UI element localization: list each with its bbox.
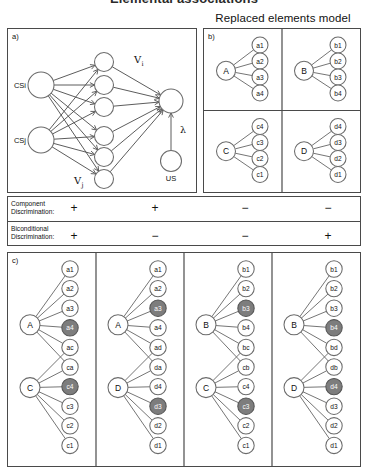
parent-element-link [215, 330, 239, 344]
element-node-label-d4: d4 [330, 383, 338, 390]
element-node-label-a2: a2 [154, 285, 162, 292]
element-node-label-c4: c4 [257, 123, 264, 130]
element-to-output-link [112, 107, 160, 132]
panel-b-tag: b) [208, 32, 215, 41]
element-node-label-b3: b3 [330, 305, 338, 312]
replaced-elements-model-title: Replaced elements model [198, 12, 368, 24]
parent-element-link [39, 392, 62, 403]
element-node-label-a4: a4 [256, 90, 264, 97]
biconditional-discrimination-value-3: − [237, 230, 253, 242]
element-node-label-ca: ca [67, 364, 74, 371]
weight-v-j-subscript: j [81, 181, 84, 189]
cropped-page-title-text: Elemental associations [0, 0, 368, 5]
biconditional-discrimination-value-4: + [320, 230, 336, 242]
element-node-label-b4: b4 [242, 324, 250, 331]
element-to-output-link [112, 67, 160, 95]
table-row-divider [8, 221, 360, 222]
parent-element-link [313, 72, 330, 75]
parent-element-link [128, 387, 150, 388]
cs-to-element-link [51, 91, 97, 131]
element-node-label-cb: cb [243, 364, 250, 371]
parent-element-link [235, 144, 252, 148]
parent-element-link [313, 153, 330, 157]
parent-element-link [125, 294, 152, 318]
component-discrimination-value-2: + [147, 202, 163, 214]
parent-element-link [304, 326, 326, 328]
element-node-label-c1: c1 [67, 442, 74, 449]
parent-element-link [124, 276, 153, 317]
parent-node-label: D [301, 146, 307, 156]
biconditional-discrimination-value-2: − [147, 230, 163, 242]
element-node-label-ad: ad [154, 344, 162, 351]
panel-b: b) Aa1a2a3a4Bb1b2b3b4Cc4c3c2c1Dd4d3d2d1 [203, 28, 361, 193]
weight-v-i-subscript: i [142, 60, 144, 68]
element-node-label-d2: d2 [154, 422, 162, 429]
element-node-label-bd: bd [330, 344, 338, 351]
element-node-label-a3: a3 [66, 305, 74, 312]
parent-element-link [127, 330, 151, 344]
element-node-label-a1: a1 [154, 266, 162, 273]
element-node-label-c1: c1 [257, 171, 264, 178]
parent-element-link [234, 157, 254, 170]
parent-node-label: D [291, 383, 297, 393]
cs-to-element-link [53, 65, 95, 80]
element-node-label-a2: a2 [66, 285, 74, 292]
parent-element-link [215, 392, 238, 403]
parent-element-link [128, 326, 150, 328]
element-node-4 [95, 127, 114, 146]
parent-node-label: B [291, 320, 297, 330]
parent-element-link [235, 153, 252, 157]
lambda-label: λ [180, 124, 186, 135]
parent-element-link [125, 395, 152, 421]
parent-element-link [235, 72, 252, 75]
component-discrimination-label: Component Discrimination: [11, 200, 54, 215]
component-discrimination-value-4: − [320, 202, 336, 214]
parent-node-label: C [223, 146, 229, 156]
element-node-label-d4: d4 [154, 383, 162, 390]
element-node-label-d1: d1 [330, 442, 338, 449]
element-node-label-da: da [154, 364, 162, 371]
parent-element-link [213, 294, 240, 318]
panel-a: a) CSiCSjUSViVjλ [7, 28, 197, 193]
parent-element-link [312, 76, 331, 89]
element-node-6 [95, 170, 114, 189]
parent-node-label: C [203, 383, 209, 393]
panel-a-network: CSiCSjUSViVjλ [8, 29, 196, 192]
parent-element-link [312, 157, 332, 170]
element-node-label-a3: a3 [256, 74, 264, 81]
parent-node-label: B [203, 320, 209, 330]
element-node-label-a1: a1 [256, 42, 264, 49]
parent-element-link [37, 294, 64, 318]
element-node-label-a4: a4 [154, 324, 162, 331]
element-node-label-b1: b1 [242, 266, 250, 273]
element-node-3 [95, 98, 114, 117]
parent-element-link [234, 50, 254, 65]
parent-element-link [301, 353, 328, 380]
us-node [161, 151, 182, 172]
parent-element-link [313, 63, 330, 68]
element-node-label-c2: c2 [243, 422, 250, 429]
element-node-label-d4: d4 [334, 123, 342, 130]
element-node-1 [95, 53, 114, 72]
element-to-output-link [113, 102, 159, 106]
parent-element-link [39, 330, 63, 344]
parent-element-link [125, 353, 152, 380]
parent-element-link [213, 353, 240, 380]
element-node-label-ac: ac [67, 344, 75, 351]
element-node-label-a3: a3 [154, 305, 162, 312]
element-node-label-d3: d3 [330, 403, 338, 410]
element-to-output-link [113, 87, 159, 98]
element-node-label-c3: c3 [67, 403, 74, 410]
arrowhead-icon [94, 166, 99, 171]
parent-element-link [235, 63, 252, 68]
parent-element-link [127, 392, 150, 403]
element-node-label-b4: b4 [334, 90, 342, 97]
element-node-label-c4: c4 [67, 383, 74, 390]
parent-element-link [234, 76, 253, 89]
us-label: US [166, 174, 176, 183]
element-node-5 [95, 148, 114, 167]
parent-element-link [216, 387, 238, 388]
element-node-2 [95, 76, 114, 95]
cs-i-label: CSi [14, 81, 26, 90]
parent-element-link [234, 131, 254, 145]
